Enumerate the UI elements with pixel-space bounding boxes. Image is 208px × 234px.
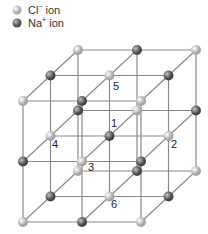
bond-line bbox=[110, 50, 138, 76]
bond-line bbox=[23, 76, 51, 102]
bond-line bbox=[141, 76, 169, 102]
sodium-ion bbox=[46, 192, 56, 202]
chloride-ion bbox=[73, 45, 83, 55]
bond-line bbox=[141, 136, 169, 162]
position-label: 3 bbox=[88, 161, 94, 173]
position-label: 5 bbox=[113, 80, 119, 92]
position-label: 6 bbox=[111, 198, 117, 210]
position-label: 4 bbox=[52, 138, 58, 150]
sodium-ion bbox=[191, 106, 201, 116]
chloride-ion bbox=[77, 157, 87, 167]
sodium-ion bbox=[164, 192, 174, 202]
bond-line bbox=[169, 50, 197, 76]
sodium-ion bbox=[18, 157, 28, 167]
bond-line bbox=[169, 171, 197, 197]
position-label: 2 bbox=[171, 138, 177, 150]
bond-line bbox=[82, 136, 110, 162]
bond-line bbox=[23, 136, 51, 162]
sodium-ion bbox=[73, 106, 83, 116]
sodium-ion bbox=[77, 96, 87, 106]
bond-line bbox=[141, 197, 169, 223]
bond-line bbox=[169, 111, 197, 137]
sodium-ion bbox=[164, 71, 174, 81]
chloride-ion bbox=[18, 217, 28, 227]
chloride-ion bbox=[136, 96, 146, 106]
bond-line bbox=[51, 111, 79, 137]
sodium-ion bbox=[132, 45, 142, 55]
chloride-ion bbox=[73, 166, 83, 176]
sodium-ion bbox=[132, 166, 142, 176]
sodium-ion bbox=[77, 217, 87, 227]
position-label: 1 bbox=[111, 117, 117, 129]
bond-line bbox=[82, 197, 110, 223]
lattice-ions bbox=[18, 45, 201, 227]
chloride-ion bbox=[105, 71, 115, 81]
chloride-ion bbox=[191, 166, 201, 176]
bond-line bbox=[51, 171, 79, 197]
chloride-ion bbox=[136, 217, 146, 227]
nacl-crystal-lattice: 123456 bbox=[0, 0, 208, 234]
bond-line bbox=[51, 50, 79, 76]
bond-line bbox=[110, 171, 138, 197]
sodium-ion bbox=[105, 131, 115, 141]
chloride-ion bbox=[191, 45, 201, 55]
bond-line bbox=[23, 197, 51, 223]
bond-line bbox=[82, 76, 110, 102]
chloride-ion bbox=[132, 106, 142, 116]
chloride-ion bbox=[18, 96, 28, 106]
sodium-ion bbox=[136, 157, 146, 167]
sodium-ion bbox=[46, 71, 56, 81]
